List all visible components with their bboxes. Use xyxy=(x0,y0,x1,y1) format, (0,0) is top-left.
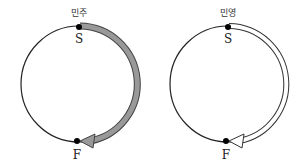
path-arrow-fill xyxy=(229,26,286,141)
diagram-canvas: 민주 S F 민영 S F xyxy=(0,0,307,166)
finish-point xyxy=(223,138,229,144)
diagram-minju: 민주 S F xyxy=(21,8,137,162)
start-label: S xyxy=(75,32,83,46)
path-arrow-band xyxy=(229,26,286,141)
finish-point xyxy=(74,138,80,144)
start-point xyxy=(76,24,82,30)
diagram-minyoung: 민영 S F xyxy=(170,8,286,162)
arrow-head xyxy=(80,134,95,148)
finish-label: F xyxy=(222,148,230,162)
finish-label: F xyxy=(73,148,81,162)
arrow-head xyxy=(229,134,244,148)
diagram-title: 민영 xyxy=(220,8,236,18)
start-point xyxy=(225,24,231,30)
diagram-title: 민주 xyxy=(71,8,87,18)
start-label: S xyxy=(224,32,232,46)
path-arrow-band xyxy=(80,26,137,141)
path-arrow-fill xyxy=(80,26,137,141)
